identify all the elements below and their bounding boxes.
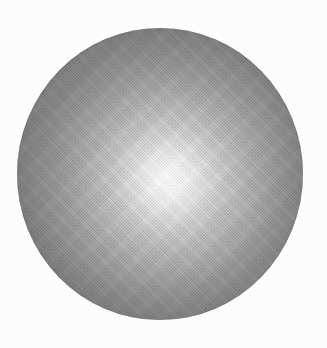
sphere-halftone-texture: [17, 28, 303, 320]
figure-canvas: [0, 0, 327, 348]
sphere-figure: [17, 28, 303, 320]
